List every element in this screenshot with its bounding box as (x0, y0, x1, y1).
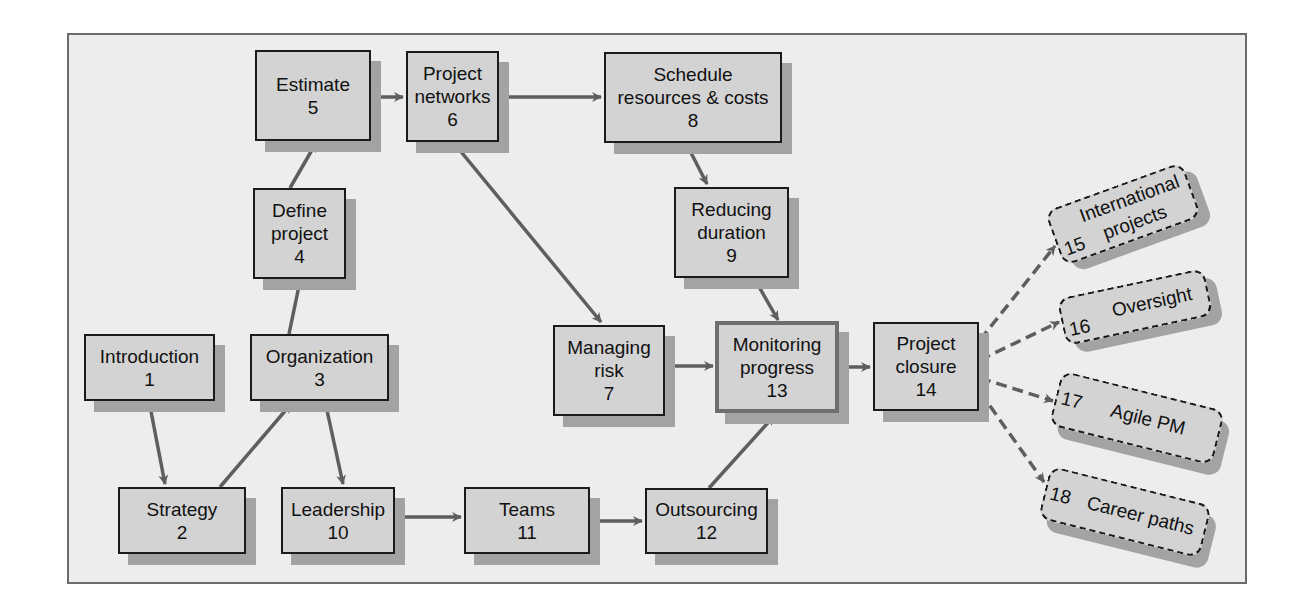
node-number: 8 (688, 109, 699, 132)
node-number: 9 (726, 244, 737, 267)
node-define-project: Define project 4 (253, 188, 346, 279)
node-number: 18 (1048, 483, 1074, 509)
node-label: risk (594, 359, 624, 382)
node-outsourcing: Outsourcing 12 (645, 488, 768, 554)
node-number: 2 (177, 521, 188, 544)
node-label: Project (423, 62, 482, 85)
node-estimate: Estimate 5 (255, 50, 371, 141)
node-label: Reducing (691, 198, 771, 221)
diagram-stage: Introduction 1 Strategy 2 Organization 3… (0, 0, 1312, 614)
node-label: duration (697, 221, 766, 244)
node-label: Define (272, 199, 327, 222)
node-label: Introduction (100, 345, 199, 368)
node-managing-risk: Managing risk 7 (553, 325, 665, 416)
node-label: Career paths (1084, 492, 1196, 540)
node-number: 12 (696, 521, 717, 544)
node-number: 17 (1059, 387, 1085, 413)
node-number: 10 (327, 521, 348, 544)
node-label: Oversight (1110, 283, 1194, 321)
node-label: Estimate (276, 73, 350, 96)
node-strategy: Strategy 2 (118, 487, 246, 554)
node-label: networks (414, 85, 490, 108)
node-number: 4 (294, 245, 305, 268)
node-label: Schedule (653, 63, 732, 86)
node-number: 14 (915, 378, 936, 401)
node-leadership: Leadership 10 (281, 487, 395, 554)
node-organization: Organization 3 (250, 334, 389, 401)
node-label: Leadership (291, 498, 385, 521)
node-label: Project (896, 332, 955, 355)
node-label: Strategy (147, 498, 218, 521)
node-number: 11 (517, 521, 537, 544)
node-reducing-duration: Reducing duration 9 (674, 187, 789, 278)
node-number: 5 (308, 96, 319, 119)
node-number: 6 (447, 108, 458, 131)
node-schedule-resources-costs: Schedule resources & costs 8 (604, 52, 782, 143)
node-number: 16 (1067, 315, 1092, 341)
node-label: Agile PM (1108, 400, 1187, 440)
node-label: project (271, 222, 328, 245)
node-label: Monitoring (733, 333, 822, 356)
node-label: Teams (499, 498, 555, 521)
node-number: 3 (314, 368, 325, 391)
node-number: 7 (604, 382, 615, 405)
node-project-closure: Project closure 14 (873, 322, 979, 411)
node-number: 1 (144, 368, 155, 391)
node-label: closure (895, 355, 956, 378)
node-monitoring-progress: Monitoring progress 13 (715, 321, 839, 413)
node-number: 15 (1061, 233, 1088, 261)
node-introduction: Introduction 1 (84, 334, 215, 401)
node-label: Managing (567, 336, 650, 359)
node-number: 13 (766, 379, 787, 402)
node-label: progress (740, 356, 814, 379)
node-project-networks: Project networks 6 (406, 51, 499, 142)
node-teams: Teams 11 (464, 487, 590, 554)
node-label: resources & costs (618, 86, 769, 109)
node-label: Outsourcing (655, 498, 757, 521)
node-label: Organization (266, 345, 374, 368)
